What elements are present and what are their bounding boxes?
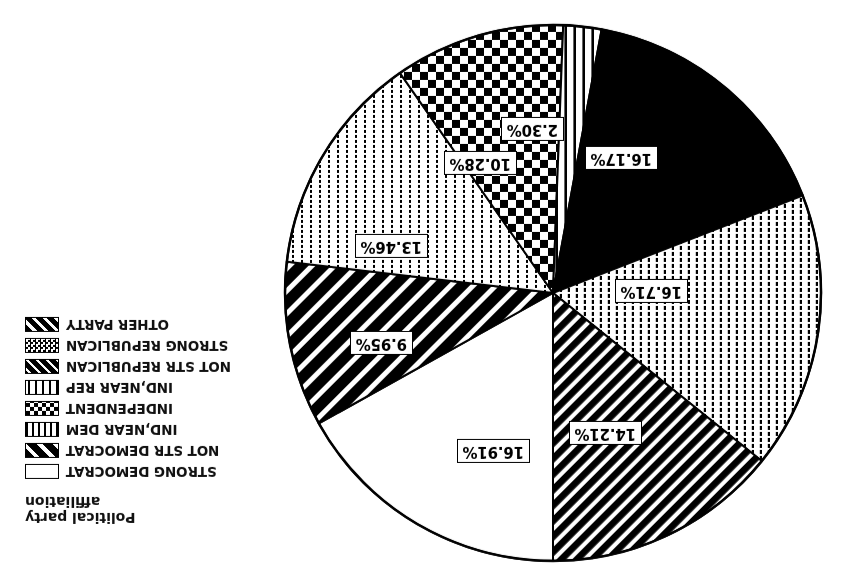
slice-label-2: 13.46% <box>355 234 428 258</box>
legend-item-other-party[interactable]: OTHER PARTY <box>25 317 275 333</box>
legend-title-line2: affiliation <box>25 494 275 510</box>
legend-item-ind-near-rep[interactable]: IND,NEAR REP <box>25 380 275 396</box>
legend-item-not-str-democrat[interactable]: NOT STR DEMOCRAT <box>25 443 275 459</box>
legend-label-independent: INDEPENDENT <box>66 401 173 417</box>
pie-chart-svg <box>278 18 828 568</box>
legend-label-ind-near-dem: IND,NEAR DEM <box>66 422 177 438</box>
slice-label-6: 16.71% <box>615 279 688 303</box>
legend-swatch-not-str-democrat <box>25 443 59 458</box>
legend-title: Political party affiliation <box>25 494 275 526</box>
legend-item-independent[interactable]: INDEPENDENT <box>25 401 275 417</box>
legend-item-not-str-republican[interactable]: NOT STR REPUBLICAN <box>25 359 275 375</box>
slice-label-0: 16.91% <box>457 439 530 463</box>
legend-label-not-str-republican: NOT STR REPUBLICAN <box>66 359 231 375</box>
slice-label-3: 10.28% <box>444 151 517 175</box>
legend-label-other-party: OTHER PARTY <box>66 317 169 333</box>
slice-label-7: 14.21% <box>569 421 642 445</box>
slice-label-1: 9.95% <box>350 331 413 355</box>
legend-item-ind-near-dem[interactable]: IND,NEAR DEM <box>25 422 275 438</box>
legend-swatch-not-str-republican <box>25 359 59 374</box>
legend-item-strong-republican[interactable]: STRONG REPUBLICAN <box>25 338 275 354</box>
chart-figure: 16.91% 9.95% 13.46% 10.28% 2.30% 16.17% … <box>0 0 848 586</box>
legend-swatch-strong-republican <box>25 338 59 353</box>
legend-swatch-strong-democrat <box>25 464 59 479</box>
legend-label-not-str-democrat: NOT STR DEMOCRAT <box>66 443 219 459</box>
legend-swatch-ind-near-rep <box>25 380 59 395</box>
legend-label-ind-near-rep: IND,NEAR REP <box>66 380 173 396</box>
slice-label-4: 2.30% <box>501 117 564 141</box>
legend-swatch-ind-near-dem <box>25 422 59 437</box>
slice-label-5: 16.17% <box>585 146 658 170</box>
legend-label-strong-republican: STRONG REPUBLICAN <box>66 338 228 354</box>
legend-title-line1: Political party <box>25 510 275 526</box>
legend-swatch-other-party <box>25 317 59 332</box>
legend-item-strong-democrat[interactable]: STRONG DEMOCRAT <box>25 464 275 480</box>
legend-label-strong-democrat: STRONG DEMOCRAT <box>66 464 217 480</box>
pie-chart: 16.91% 9.95% 13.46% 10.28% 2.30% 16.17% … <box>278 18 828 568</box>
legend-swatch-independent <box>25 401 59 416</box>
legend: Political party affiliation STRONG DEMOC… <box>25 312 275 526</box>
